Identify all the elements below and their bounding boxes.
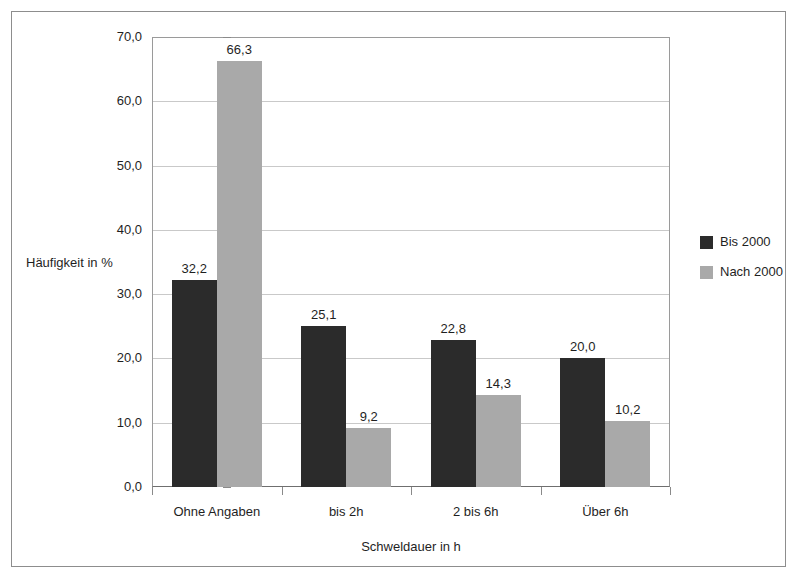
y-axis-tick-label: 20,0	[82, 351, 142, 364]
x-axis-tick-mark	[152, 487, 153, 495]
x-axis-category-label: Ohne Angaben	[152, 505, 282, 519]
x-axis-category-label: 2 bis 6h	[411, 505, 541, 519]
bar	[560, 358, 605, 487]
legend-entry: Bis 2000	[700, 233, 786, 263]
bar-value-label: 66,3	[205, 43, 274, 56]
bar-value-label: 20,0	[548, 340, 617, 353]
y-axis-tick-label: 0,0	[82, 480, 142, 493]
x-axis-tick-mark	[282, 487, 283, 495]
legend-swatch-icon	[700, 266, 713, 279]
bar	[301, 326, 346, 487]
bar-value-label: 25,1	[289, 308, 358, 321]
y-axis-tick-label: 50,0	[82, 159, 142, 172]
bar-chart: 70,060,050,040,030,020,010,00,0 Häufigke…	[0, 0, 798, 580]
bar	[217, 61, 262, 487]
bar-value-label: 14,3	[464, 377, 533, 390]
y-axis-tick-labels: 70,060,050,040,030,020,010,00,0	[78, 0, 142, 580]
bar	[605, 421, 650, 487]
x-axis-category-label: bis 2h	[282, 505, 412, 519]
y-axis-tick-label: 30,0	[82, 287, 142, 300]
y-axis-tick-mark	[223, 37, 231, 38]
bar	[431, 340, 476, 487]
x-axis-title: Schweldauer in h	[152, 540, 670, 554]
bar	[172, 280, 217, 487]
bar	[476, 395, 521, 487]
chart-legend: Bis 2000Nach 2000	[700, 233, 786, 293]
legend-swatch-icon	[700, 236, 713, 249]
bar-value-label: 9,2	[334, 410, 403, 423]
x-axis-category-label: Über 6h	[541, 505, 671, 519]
x-axis-tick-mark	[670, 487, 671, 495]
y-axis-tick-label: 60,0	[82, 94, 142, 107]
bar	[346, 428, 391, 487]
y-axis-tick-label: 70,0	[82, 30, 142, 43]
y-axis-tick-label: 40,0	[82, 223, 142, 236]
y-axis-title: Häufigkeit in %	[26, 256, 113, 270]
y-axis-tick-mark	[223, 487, 231, 488]
legend-entry-label: Bis 2000	[720, 235, 771, 249]
x-axis-tick-mark	[411, 487, 412, 495]
bar-value-label: 22,8	[419, 322, 488, 335]
x-axis-tick-mark	[541, 487, 542, 495]
legend-entry: Nach 2000	[700, 263, 786, 293]
bar-value-label: 10,2	[593, 403, 662, 416]
y-axis-tick-label: 10,0	[82, 416, 142, 429]
legend-entry-label: Nach 2000	[720, 265, 783, 279]
